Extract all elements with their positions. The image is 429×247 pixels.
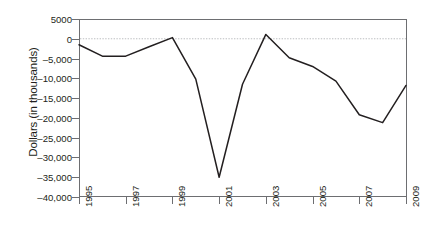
x-axis-tick-label: 2001: [223, 186, 234, 207]
y-axis-tick-label: –10,000: [22, 73, 72, 84]
y-axis-tick-mark: [72, 197, 79, 198]
x-axis-tick-label: 1999: [176, 186, 187, 207]
y-axis-tick-mark: [72, 59, 79, 60]
x-axis-tick-label: 2007: [363, 186, 374, 207]
y-axis-tick-mark: [72, 19, 79, 20]
x-axis-tick-mark: [406, 197, 407, 204]
x-axis-tick-mark: [172, 197, 173, 204]
y-axis-tick-label: –25,000: [22, 132, 72, 143]
y-axis-tick-label: –5,000: [22, 53, 72, 64]
y-axis-tick-mark: [72, 39, 79, 40]
y-axis-tick-label: 0: [22, 33, 72, 44]
x-axis-tick-label: 2005: [317, 186, 328, 207]
x-axis-tick-mark: [313, 197, 314, 204]
y-axis-tick-mark: [72, 157, 79, 158]
y-axis-tick-label: –30,000: [22, 152, 72, 163]
plot-area: [79, 19, 407, 197]
y-axis-tick-mark: [72, 138, 79, 139]
x-axis-tick-mark: [126, 197, 127, 204]
line-chart: Dollars (in thousands) 50000–5,000–10,00…: [0, 0, 429, 247]
x-axis-tick-label: 1995: [83, 186, 94, 207]
x-axis-tick-label: 2003: [270, 186, 281, 207]
y-axis-tick-label: –40,000: [22, 192, 72, 203]
x-axis-tick-mark: [359, 197, 360, 204]
y-axis-tick-label: –35,000: [22, 172, 72, 183]
y-axis-tick-label: –20,000: [22, 112, 72, 123]
y-axis-tick-label: –15,000: [22, 93, 72, 104]
x-axis-tick-mark: [79, 197, 80, 204]
x-axis-tick-label: 2009: [410, 186, 421, 207]
y-axis-tick-label: 5000: [22, 14, 72, 25]
y-axis-tick-mark: [72, 98, 79, 99]
x-axis-tick-mark: [266, 197, 267, 204]
x-axis-tick-mark: [219, 197, 220, 204]
x-axis-tick-label: 1997: [130, 186, 141, 207]
y-axis-tick-mark: [72, 118, 79, 119]
y-axis-tick-mark: [72, 78, 79, 79]
y-axis-tick-labels: 50000–5,000–10,000–15,000–20,000–25,000–…: [22, 0, 72, 247]
y-axis-tick-mark: [72, 177, 79, 178]
